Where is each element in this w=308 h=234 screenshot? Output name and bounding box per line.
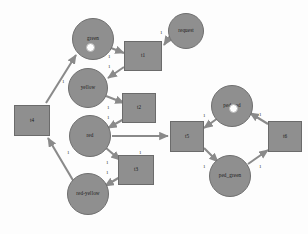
arc-weight: 1 xyxy=(107,115,110,120)
place-ped-green[interactable]: ped_green xyxy=(209,155,251,197)
arc-weight: 1 xyxy=(106,170,109,175)
arc-weight: 1 xyxy=(203,164,206,169)
place-label-red-yellow: red-yellow xyxy=(76,191,99,196)
petri-net-canvas: green request yellow red red-yellow ped_… xyxy=(0,0,308,234)
arc-weight: 1 xyxy=(107,105,110,110)
place-label-yellow: yellow xyxy=(81,85,96,90)
arc-weight: 1 xyxy=(139,150,142,155)
arc-weight: 1 xyxy=(106,160,109,165)
transition-t6[interactable]: t6 xyxy=(268,121,302,152)
token-ped-red xyxy=(229,104,238,113)
token-green xyxy=(86,43,95,52)
transition-label-t5: t5 xyxy=(185,134,189,139)
place-label-red: red xyxy=(87,133,94,138)
place-label-green: green xyxy=(87,36,99,41)
arc-green-t1 xyxy=(111,48,124,53)
arc-weight: 1 xyxy=(108,64,111,69)
place-red-yellow[interactable]: red-yellow xyxy=(67,173,109,215)
transition-label-t1: t1 xyxy=(141,53,145,58)
arc-weight: 1 xyxy=(62,79,65,84)
place-ped-red[interactable]: ped_red xyxy=(211,85,253,127)
transition-t2[interactable]: t2 xyxy=(122,93,156,123)
place-label-ped-green: ped_green xyxy=(219,173,242,178)
arc-pedgreen-t6 xyxy=(248,150,268,164)
transition-label-t4: t4 xyxy=(30,118,34,123)
arc-weight: 1 xyxy=(203,113,206,118)
transition-label-t3: t3 xyxy=(134,167,138,172)
arc-weight: 1 xyxy=(259,164,262,169)
arc-weight: 1 xyxy=(108,54,111,59)
place-request[interactable]: request xyxy=(168,13,204,49)
transition-t5[interactable]: t5 xyxy=(170,121,204,152)
transition-t4[interactable]: t4 xyxy=(14,105,50,136)
place-label-request: request xyxy=(178,28,194,33)
arc-weight: 1 xyxy=(160,30,163,35)
arc-weight: 1 xyxy=(67,150,70,155)
transition-label-t6: t6 xyxy=(283,134,287,139)
transition-t3[interactable]: t3 xyxy=(118,155,154,185)
arc-weight: 1 xyxy=(259,112,262,117)
transition-t1[interactable]: t1 xyxy=(124,41,162,71)
place-yellow[interactable]: yellow xyxy=(68,68,108,108)
place-red[interactable]: red xyxy=(69,115,111,157)
transition-label-t2: t2 xyxy=(137,105,141,110)
